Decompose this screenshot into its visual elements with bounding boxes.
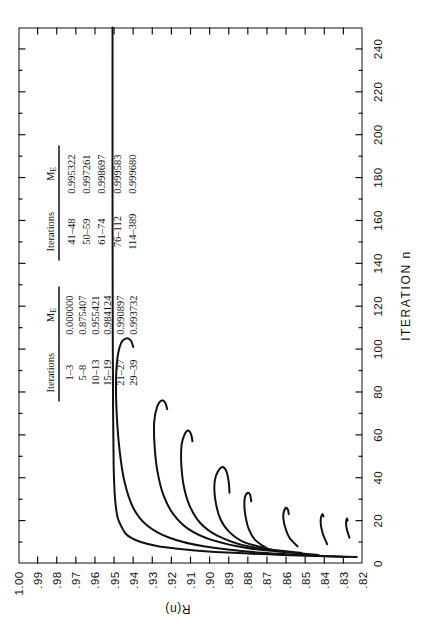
cell-me-value: 0.999680 <box>125 145 140 202</box>
cell-me-value: 0.995322 <box>59 145 80 202</box>
inset-tables: Iterations ME 1–30.0000005–80.87540710–1… <box>44 145 140 401</box>
me-subscript-left: E <box>48 308 57 313</box>
y-tick-label: .98 <box>50 571 62 623</box>
cell-iterations: 10–13 <box>89 343 102 401</box>
table-row: 10–130.955421 <box>89 286 102 401</box>
curve-branch-6 <box>244 492 267 548</box>
curve-branch-7 <box>283 507 297 546</box>
curve-branch-9 <box>346 518 349 537</box>
cell-iterations: 61–74 <box>94 202 109 260</box>
table-row: 76–1120.999583 <box>109 145 124 260</box>
y-tick-label: .84 <box>318 571 330 623</box>
y-tick-label: .94 <box>127 571 139 623</box>
me-subscript-right: E <box>48 167 57 172</box>
x-tick-label: 0 <box>371 560 383 567</box>
x-tick-label: 160 <box>371 210 383 230</box>
cell-iterations: 1–3 <box>59 343 76 401</box>
y-tick-label: .93 <box>146 571 158 623</box>
table-row: 114–3890.999680 <box>125 145 140 260</box>
col-header-iterations-left: Iterations <box>44 343 59 401</box>
table-row: 1–30.000000 <box>59 286 76 401</box>
curve-branch-2 <box>115 338 346 557</box>
rotated-figure-wrapper: 0204060801001201401601802002202401.00.99… <box>0 0 444 629</box>
table-row: 50–590.997261 <box>79 145 94 260</box>
x-tick-label: 140 <box>371 253 383 273</box>
cell-iterations: 76–112 <box>109 202 124 260</box>
y-tick-label: 1.00 <box>12 571 24 623</box>
table-row: 5–80.875407 <box>76 286 89 401</box>
y-tick-label: .90 <box>203 571 215 623</box>
col-header-me-left: ME <box>44 286 59 343</box>
cell-iterations: 29–39 <box>127 343 140 401</box>
y-axis-title: R(n) <box>164 601 190 615</box>
y-tick-label: .85 <box>299 571 311 623</box>
cell-iterations: 15–19 <box>101 343 114 401</box>
table-row: 15–190.984124 <box>101 286 114 401</box>
cell-iterations: 41–48 <box>59 202 80 260</box>
curve-branch-1 <box>112 27 356 557</box>
y-tick-label: .83 <box>337 571 349 623</box>
col-header-me-right: ME <box>44 145 59 202</box>
x-tick-label: 80 <box>371 385 383 399</box>
table-row: 41–480.995322 <box>59 145 80 260</box>
x-tick-label: 240 <box>371 38 383 58</box>
cell-me-value: 0.990897 <box>114 286 127 343</box>
y-tick-label: .95 <box>108 571 120 623</box>
y-tick-label: .89 <box>222 571 234 623</box>
x-tick-label: 200 <box>371 124 383 144</box>
x-tick-label: 20 <box>371 513 383 527</box>
cell-me-value: 0.998697 <box>94 145 109 202</box>
curve-branch-3 <box>153 400 318 555</box>
cell-iterations: 114–389 <box>125 202 140 260</box>
table-row: 29–390.993732 <box>127 286 140 401</box>
table-row: 61–740.998697 <box>94 145 109 260</box>
x-tick-label: 100 <box>371 338 383 358</box>
cell-me-value: 0.999583 <box>109 145 124 202</box>
x-tick-label: 60 <box>371 428 383 442</box>
x-tick-label: 220 <box>371 81 383 101</box>
cell-me-value: 0.955421 <box>89 286 102 343</box>
iterations-me-table-right: Iterations ME 41–480.99532250–590.997261… <box>44 145 140 260</box>
cell-me-value: 0.997261 <box>79 145 94 202</box>
col-header-iterations-right: Iterations <box>44 202 59 260</box>
figure-canvas: 0204060801001201401601802002202401.00.99… <box>0 0 444 629</box>
y-tick-label: .99 <box>31 571 43 623</box>
cell-iterations: 21–27 <box>114 343 127 401</box>
cell-me-value: 0.984124 <box>101 286 114 343</box>
y-tick-label: .86 <box>280 571 292 623</box>
me-symbol-left: M <box>44 312 55 321</box>
y-tick-label: .82 <box>356 571 368 623</box>
curve-branch-8 <box>320 514 327 544</box>
cell-me-value: 0.875407 <box>76 286 89 343</box>
x-tick-label: 40 <box>371 470 383 484</box>
cell-iterations: 50–59 <box>79 202 94 260</box>
x-tick-label: 120 <box>371 296 383 316</box>
me-symbol-right: M <box>44 171 55 180</box>
cell-me-value: 0.000000 <box>59 286 76 343</box>
y-tick-label: .96 <box>88 571 100 623</box>
x-axis-title: ITERATION n <box>398 250 412 341</box>
x-tick-label: 180 <box>371 167 383 187</box>
cell-iterations: 5–8 <box>76 343 89 401</box>
y-tick-label: .97 <box>69 571 81 623</box>
table-row: 21–270.990897 <box>114 286 127 401</box>
y-tick-label: .88 <box>241 571 253 623</box>
cell-me-value: 0.993732 <box>127 286 140 343</box>
iterations-me-table-left: Iterations ME 1–30.0000005–80.87540710–1… <box>44 286 140 401</box>
y-tick-label: .87 <box>260 571 272 623</box>
